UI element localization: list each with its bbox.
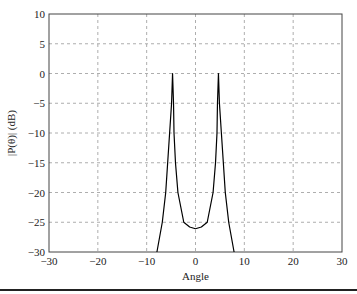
- x-tick-label: −10: [138, 255, 156, 267]
- tick-labels: −30−20−1001020301050−5−10−15−20−25−30: [28, 8, 348, 267]
- x-tick-label: 30: [337, 255, 349, 267]
- bottom-rule: [0, 289, 357, 291]
- y-tick-label: −5: [33, 97, 45, 109]
- y-tick-label: 0: [40, 68, 46, 80]
- y-tick-label: −10: [28, 127, 46, 139]
- y-tick-label: 5: [40, 38, 46, 50]
- y-tick-label: −30: [28, 246, 46, 258]
- y-tick-label: −20: [28, 187, 46, 199]
- grid: [49, 14, 342, 252]
- x-axis-label: Angle: [182, 270, 209, 282]
- x-tick-label: 20: [288, 255, 300, 267]
- x-tick-label: 10: [239, 255, 251, 267]
- x-tick-label: −20: [89, 255, 107, 267]
- y-tick-label: −25: [28, 216, 46, 228]
- chart: −30−20−1001020301050−5−10−15−20−25−30 An…: [0, 0, 357, 294]
- x-tick-label: 0: [193, 255, 199, 267]
- y-tick-label: 10: [34, 8, 46, 20]
- y-axis-label: |P(θ)| (dB): [5, 110, 18, 156]
- y-tick-label: −15: [28, 157, 46, 169]
